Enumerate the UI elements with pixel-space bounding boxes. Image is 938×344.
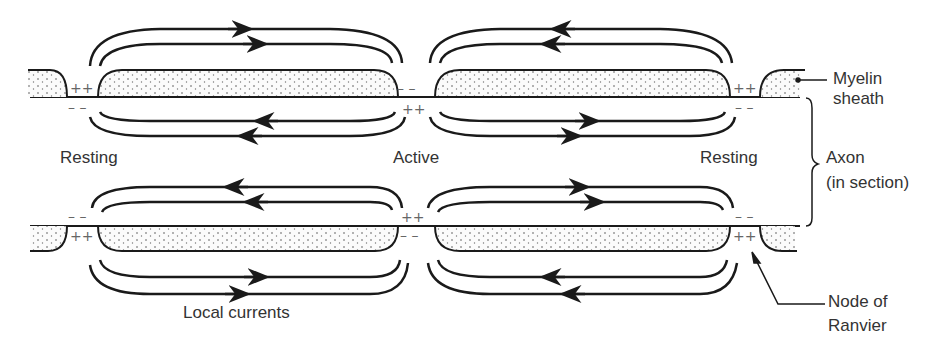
- charge-bottom-inside-3: – –: [735, 208, 753, 224]
- top-outside-arrowheads: [228, 29, 575, 44]
- label-axon-line1: Axon: [826, 147, 865, 168]
- top-membrane: [28, 70, 805, 97]
- bottom-inside-arrowheads: [231, 187, 597, 202]
- callout-lines: [752, 78, 827, 304]
- myelin-segment-top-1: [98, 70, 398, 97]
- label-node-line2: Ranvier: [828, 315, 887, 336]
- label-myelin-line2: sheath: [833, 88, 884, 109]
- node-callout-line: [755, 258, 825, 304]
- myelin-segment-top-right-stub: [760, 70, 800, 97]
- label-resting-right: Resting: [700, 147, 758, 168]
- top-inside-arrowheads: [245, 121, 592, 136]
- node-callout-arrowhead-icon: [752, 252, 760, 263]
- charge-top-outside-2: – –: [397, 80, 415, 96]
- bottom-outside-current-loops: [90, 260, 737, 294]
- charge-top-inside-1: – –: [68, 99, 86, 115]
- bottom-outside-arrowheads: [225, 277, 585, 294]
- charge-bottom-outside-1: ++: [70, 228, 93, 244]
- myelin-callout-dot: [796, 78, 800, 82]
- top-outside-current-loops: [90, 29, 732, 66]
- charge-bottom-outside-3: ++: [733, 228, 756, 244]
- label-axon-line2: (in section): [826, 172, 909, 193]
- myelin-segment-bottom-right-stub: [760, 226, 795, 251]
- charge-bottom-inside-1: – –: [68, 208, 86, 224]
- charge-bottom-outside-2: – –: [400, 227, 418, 243]
- label-resting-left: Resting: [60, 147, 118, 168]
- myelin-segment-top-2: [435, 70, 730, 97]
- label-myelin-line1: Myelin: [833, 68, 882, 89]
- label-local-currents: Local currents: [183, 302, 290, 323]
- myelin-segment-bottom-1: [98, 226, 398, 251]
- charge-top-outside-1: ++: [70, 80, 93, 96]
- charge-top-inside-3: – –: [735, 99, 753, 115]
- label-active: Active: [393, 147, 439, 168]
- axon-brace-icon: [806, 98, 818, 226]
- charge-top-inside-2: ++: [402, 101, 425, 117]
- myelin-segment-bottom-2: [435, 226, 730, 251]
- myelin-segment-bottom-left-stub: [30, 226, 67, 251]
- charge-top-outside-3: ++: [733, 80, 756, 96]
- charge-bottom-inside-2: ++: [401, 209, 424, 225]
- myelinated-axon-diagram: ++ – – ++ – – ++ – – – – ++ – – ++ – – +…: [0, 0, 938, 344]
- label-node-line1: Node of: [828, 291, 888, 312]
